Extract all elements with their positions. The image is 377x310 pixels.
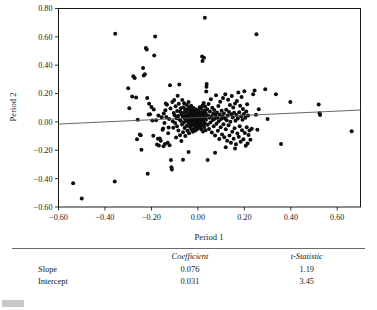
data-point [243,131,247,135]
data-point [230,130,234,134]
data-point [126,86,130,90]
data-point [237,135,241,139]
intercept-coefficient-value: 0.031 [132,275,249,287]
table-header-row: Coefficient t-Statistic [12,249,365,263]
data-point [225,139,229,143]
data-point [172,98,176,102]
chart-canvas: −0.60−0.40−0.200.000.200.400.600.80 −0.6… [0,0,377,248]
x-tick-label: 0.40 [284,213,298,222]
data-point [177,102,181,106]
data-point [154,118,158,122]
data-point [168,83,172,87]
data-point [181,158,185,162]
data-point [350,129,354,133]
slope-t-statistic-value: 1.19 [248,263,365,275]
data-point [251,92,255,96]
x-tick-label: −0.20 [142,213,161,222]
data-point [171,126,175,130]
data-point [228,120,232,124]
regression-stats-table: Coefficient t-Statistic Slope 0.076 1.19… [12,249,365,287]
table-row: Slope 0.076 1.19 [12,263,365,275]
data-point [148,112,152,116]
y-tick-label: 0.80 [38,4,52,13]
data-point [145,47,149,51]
data-point [235,99,239,103]
data-point [222,111,226,115]
data-point [250,127,254,131]
data-point [231,105,235,109]
data-point [210,130,214,134]
plot-border [59,9,361,208]
data-point [234,142,238,146]
data-point [218,100,222,104]
data-point [225,118,229,122]
x-tick-label: 0.60 [330,213,344,222]
data-point [248,138,252,142]
y-tick-label: −0.20 [34,146,53,155]
data-point [166,131,170,135]
data-point [206,158,210,162]
data-point [168,107,172,111]
data-point [317,102,321,106]
y-tick-label: −0.60 [34,203,53,212]
data-point [174,104,178,108]
column-header-coefficient: Coefficient [132,249,249,263]
data-point [176,128,180,132]
data-point [244,109,248,113]
data-point [240,95,244,99]
data-point [152,54,156,58]
data-point [233,147,237,151]
y-axis-title: Period 2 [8,93,18,122]
data-point [163,142,167,146]
data-point [139,133,143,137]
data-point [163,108,167,112]
data-point [145,96,149,100]
data-point [151,134,155,138]
data-point [207,127,211,131]
data-point [168,143,172,147]
data-point [318,113,322,117]
data-point [240,128,244,132]
data-point [161,126,165,130]
data-point [175,124,179,128]
data-point [255,128,259,132]
data-point [229,141,233,145]
data-point [134,96,138,100]
data-point [274,92,278,96]
data-point [205,82,209,86]
data-point [135,137,139,141]
data-point [127,106,131,110]
data-point [71,181,75,185]
data-point [156,113,160,117]
data-point [238,124,242,128]
data-point [143,72,147,76]
data-point [213,151,217,155]
data-point [207,102,211,106]
y-axis-ticks [55,9,59,208]
data-point [170,168,174,172]
data-point [238,104,242,108]
y-tick-label: 0.00 [38,118,52,127]
data-point [146,172,150,176]
data-point [165,103,169,107]
intercept-t-statistic-value: 3.45 [248,275,365,287]
data-point [279,142,283,146]
data-point [288,100,292,104]
data-point [167,126,171,130]
data-point [150,119,154,123]
y-tick-label: 0.60 [38,33,52,42]
data-point [157,143,161,147]
data-point [187,150,191,154]
data-point [136,118,140,122]
data-point [247,133,251,137]
data-point [254,32,258,36]
data-point [241,137,245,141]
data-point [204,128,208,132]
data-point [221,96,225,100]
data-point [180,98,184,102]
data-point [203,16,207,20]
data-point [153,35,157,39]
data-point [179,139,183,143]
data-point [174,135,178,139]
data-point [221,122,225,126]
